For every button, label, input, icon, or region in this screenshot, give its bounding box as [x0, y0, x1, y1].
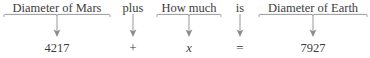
down-arrow-icon-is [223, 14, 257, 40]
phrase-plus: plus [112, 1, 154, 15]
down-arrow-icon-plus [112, 14, 154, 40]
phrase-diameter-of-earth: Diameter of Earth [257, 1, 369, 15]
phrase-is: is [223, 1, 257, 15]
phrase-how-much: How much [155, 1, 223, 15]
underbrace-arrow-icon-how-much [155, 14, 223, 40]
translation-column-plus: plus + [112, 0, 154, 58]
translation-column-diameter-of-mars: Diameter of Mars 4217 [2, 0, 112, 58]
translation-column-is: is = [223, 0, 257, 58]
term-diameter-of-mars: 4217 [2, 41, 112, 55]
term-diameter-of-earth: 7927 [257, 41, 369, 55]
underbrace-arrow-icon-diameter-of-earth [257, 14, 369, 40]
word-problem-translation-diagram: Diameter of Mars 4217 plus + How much [0, 0, 370, 58]
underbrace-arrow-icon-diameter-of-mars [2, 14, 112, 40]
term-how-much: x [155, 41, 223, 55]
phrase-diameter-of-mars: Diameter of Mars [2, 1, 112, 15]
translation-column-how-much: How much x [155, 0, 223, 58]
translation-column-diameter-of-earth: Diameter of Earth 7927 [257, 0, 369, 58]
term-plus: + [112, 41, 154, 55]
term-is: = [223, 41, 257, 55]
